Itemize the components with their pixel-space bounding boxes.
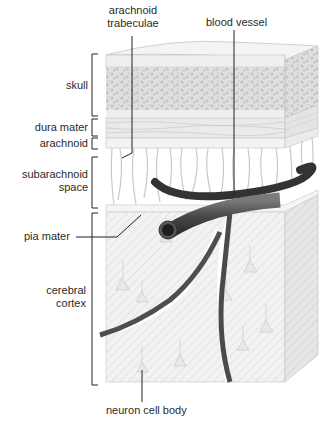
neuron-cell-body-label: neuron cell body: [106, 404, 187, 417]
skull-layer: [106, 41, 318, 118]
arachnoid-trabeculae-label-line2: trabeculae: [94, 17, 172, 30]
arachnoid-bracket: [92, 138, 98, 149]
arachnoid-trabeculae-label-line1: arachnoid: [94, 4, 172, 17]
arachnoid-label: arachnoid: [20, 137, 88, 150]
arachnoid-trabeculae-label: arachnoid trabeculae: [94, 4, 172, 30]
skull-label: skull: [20, 79, 88, 92]
dura-mater-bracket: [92, 119, 98, 136]
cerebral-cortex-label-line1: cerebral: [10, 284, 86, 297]
blood-vessel-label: blood vessel: [206, 16, 267, 29]
dura-mater-label: dura mater: [20, 121, 88, 134]
subarachnoid-space-label: subarachnoid space: [10, 168, 88, 194]
skull-bracket: [92, 54, 98, 116]
cerebral-cortex-label: cerebral cortex: [10, 284, 86, 310]
subarachnoid-bracket: [92, 157, 98, 208]
label-brackets: [92, 54, 98, 385]
cerebral-cortex-label-line2: cortex: [10, 297, 86, 310]
cerebral-cortex-block: [106, 195, 318, 382]
subarachnoid-space-label-line1: subarachnoid: [10, 168, 88, 181]
subarachnoid-space-label-line2: space: [10, 181, 88, 194]
meninges-diagram: [0, 0, 330, 422]
cerebral-cortex-bracket: [92, 213, 98, 385]
pia-mater-label: pia mater: [24, 230, 70, 243]
